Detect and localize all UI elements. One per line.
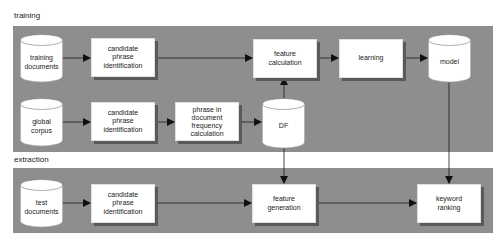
box-label-line: candidate (104, 45, 143, 54)
keyword-ranking-box: keyword ranking (417, 184, 481, 223)
box-label-line: phrase (104, 199, 143, 208)
box-label-line: identification (104, 208, 143, 217)
box-label-line: keyword (436, 195, 462, 204)
global-corpus-datastore: global corpus (20, 98, 63, 146)
box-label-line: feature (267, 195, 300, 204)
test-documents-datastore: test documents (20, 179, 63, 227)
box-label-line: phrase in (190, 106, 223, 114)
box-label-line: candidate (104, 191, 143, 200)
box-label-line: calculation (190, 130, 223, 138)
box-label-line: feature (268, 50, 301, 59)
box-label-line: phrase (104, 53, 143, 62)
datastore-label-line: DF (262, 122, 305, 131)
box-label-line: document (190, 114, 223, 122)
datastore-label-line: test (20, 199, 63, 208)
datastore-label-line: documents (20, 208, 63, 217)
feature-calculation-box: feature calculation (253, 39, 317, 78)
feature-generation-box: feature generation (252, 184, 316, 223)
box-label-line: learning (359, 54, 384, 63)
datastore-label-line: training (20, 54, 63, 63)
model-datastore: model (428, 34, 471, 82)
df-datastore: DF (262, 98, 305, 148)
datastore-label-line: corpus (20, 127, 63, 136)
box-label-line: identification (104, 62, 143, 71)
phrase-document-frequency-calculation-box: phrase in document frequency calculation (175, 102, 239, 141)
learning-box: learning (339, 39, 403, 78)
box-label-line: ranking (436, 204, 462, 213)
datastore-label-line: global (20, 118, 63, 127)
box-label-line: frequency (190, 122, 223, 130)
training-documents-datastore: training documents (20, 34, 63, 82)
candidate-phrase-identification-training-box: candidate phrase identification (91, 38, 155, 77)
datastore-label-line: model (428, 58, 471, 67)
candidate-phrase-identification-corpus-box: candidate phrase identification (91, 102, 155, 141)
box-label-line: candidate (104, 109, 143, 118)
box-label-line: identification (104, 126, 143, 135)
box-label-line: calculation (268, 59, 301, 68)
box-label-line: generation (267, 204, 300, 213)
datastore-label-line: documents (20, 63, 63, 72)
candidate-phrase-identification-test-box: candidate phrase identification (91, 184, 155, 223)
box-label-line: phrase (104, 117, 143, 126)
